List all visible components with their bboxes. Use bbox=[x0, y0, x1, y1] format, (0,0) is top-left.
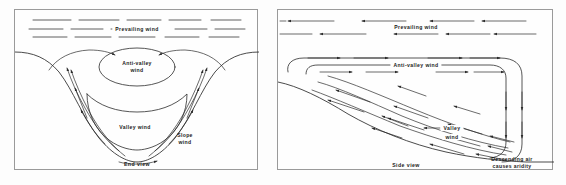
label-descending-air-line2: causes aridity bbox=[493, 163, 532, 170]
label-valley-wind-side-line1: Valley bbox=[441, 125, 464, 131]
return-flow-left bbox=[49, 50, 115, 70]
label-valley-wind-end: Valley wind bbox=[119, 124, 150, 131]
side-view-drawing bbox=[278, 10, 554, 171]
valley-wind-streamlines bbox=[312, 76, 510, 155]
anti-valley-inner-loop bbox=[306, 65, 506, 158]
panel-end-view: Prevailing wind Anti-valley wind Valley … bbox=[14, 9, 258, 170]
descending-air-arrows bbox=[506, 92, 522, 138]
caption-side-view: Side view bbox=[392, 162, 420, 168]
end-view-drawing bbox=[15, 10, 259, 171]
label-anti-valley-wind-side: Anti-valley wind bbox=[390, 62, 441, 68]
label-slope-wind-line2: wind bbox=[178, 139, 191, 146]
label-prevailing-wind-end: Prevailing wind bbox=[112, 26, 161, 32]
label-valley-wind-side-line2: wind bbox=[442, 134, 461, 140]
return-flow-right bbox=[159, 50, 225, 70]
valley-wind-arrows bbox=[328, 86, 514, 160]
panel-side-view: Prevailing wind Anti-valley wind Valley … bbox=[277, 9, 553, 170]
wind-circulation-figure: Prevailing wind Anti-valley wind Valley … bbox=[0, 0, 566, 185]
label-anti-valley-wind-end-line2: wind bbox=[130, 67, 143, 74]
label-prevailing-wind-side: Prevailing wind bbox=[391, 24, 440, 30]
caption-end-view: End view bbox=[124, 161, 150, 167]
valley-floor-profile-side bbox=[278, 82, 554, 162]
slope-wind-left bbox=[67, 68, 125, 156]
